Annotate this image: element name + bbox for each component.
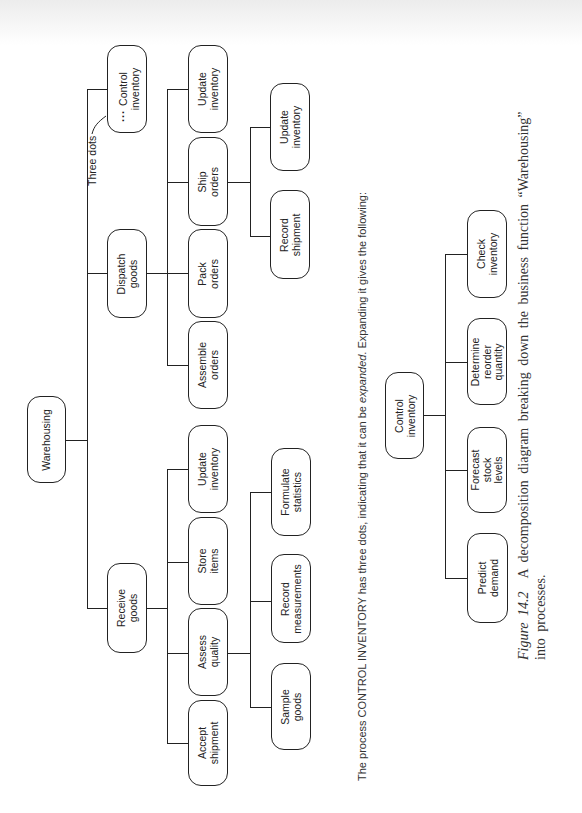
- figure-caption-line2: into processes.: [533, 575, 549, 660]
- branch-line: [167, 469, 168, 743]
- caption-text-continued: into processes.: [533, 575, 548, 660]
- expand-dots-icon: ...: [114, 110, 126, 122]
- connector: [167, 469, 188, 470]
- connector: [87, 89, 107, 90]
- node-receive-goods: Receive goods: [107, 563, 147, 653]
- connector: [147, 273, 167, 274]
- connector: [445, 254, 467, 255]
- branch-line: [167, 89, 168, 365]
- node-label: Dispatch goods: [116, 253, 139, 294]
- branch-line: [250, 492, 251, 707]
- node-store-items: Store items: [188, 517, 228, 605]
- node-label: Ship orders: [197, 167, 220, 197]
- body-text-end: . Expanding it gives the following:: [356, 192, 368, 355]
- node-pack-orders: Pack orders: [188, 229, 228, 318]
- node-record-measurements: Record measurements: [271, 554, 311, 643]
- node-update-inventory-ship: Update inventory: [270, 83, 310, 171]
- node-label: Formulate statistics: [280, 468, 303, 515]
- connector: [167, 89, 188, 90]
- connector: [147, 608, 167, 609]
- node-label: Predict demand: [476, 559, 499, 597]
- figure-label: Figure 14.2: [516, 591, 531, 660]
- node-label: Assess quality: [197, 635, 220, 669]
- branch-line: [445, 254, 446, 578]
- node-ship-orders: Ship orders: [188, 137, 228, 226]
- three-dots-annotation: Three dots: [86, 136, 98, 186]
- node-label: Assemble orders: [197, 342, 220, 388]
- connector: [250, 127, 270, 128]
- connector: [250, 492, 271, 493]
- connector: [167, 365, 188, 366]
- node-label: Record measurements: [280, 564, 303, 633]
- node-label: Receive goods: [116, 589, 139, 627]
- node-check-inventory: Check inventory: [467, 210, 507, 298]
- node-control-inventory: Control inventory ...: [107, 45, 147, 133]
- connector: [424, 415, 445, 416]
- node-assemble-orders: Assemble orders: [188, 321, 228, 409]
- connector: [167, 743, 188, 744]
- body-paragraph: The process CONTROL INVENTORY has three …: [356, 192, 368, 781]
- node-label: Record shipment: [279, 213, 302, 256]
- node-control-inventory-expanded: Control inventory: [385, 372, 424, 459]
- node-update-inventory-dispatch: Update inventory: [188, 45, 228, 133]
- node-assess-quality: Assess quality: [188, 608, 228, 696]
- node-label: Update inventory: [279, 106, 302, 149]
- node-label: Update inventory: [197, 68, 220, 111]
- connector: [87, 608, 107, 609]
- node-label: Check inventory: [476, 233, 499, 276]
- node-label: Accept shipment: [197, 722, 220, 765]
- caption-text: A decomposition diagram breaking down th…: [516, 112, 531, 579]
- connector: [250, 236, 270, 237]
- node-label: Forecast stock levels: [470, 450, 505, 491]
- node-label: Warehousing: [41, 409, 53, 470]
- node-dispatch-goods: Dispatch goods: [107, 229, 147, 318]
- node-label: Sample goods: [280, 689, 303, 725]
- node-label: Update inventory: [197, 448, 220, 491]
- connector: [250, 601, 271, 602]
- connector: [66, 440, 87, 441]
- body-text-emphasis: expanded: [356, 355, 368, 403]
- connector: [167, 273, 188, 274]
- connector: [445, 362, 467, 363]
- node-label: Control inventory: [393, 394, 416, 437]
- connector: [228, 182, 250, 183]
- body-text-start: The process CONTROL INVENTORY has three …: [356, 403, 368, 781]
- page-top-shade: [0, 0, 582, 45]
- connector: [167, 182, 188, 183]
- connector: [250, 707, 271, 708]
- connector: [167, 562, 188, 563]
- node-update-inventory-receive: Update inventory: [188, 425, 228, 513]
- node-label: Store items: [197, 548, 220, 573]
- connector: [87, 273, 107, 274]
- node-formulate-statistics: Formulate statistics: [271, 448, 311, 536]
- connector: [445, 470, 467, 471]
- node-label: Pack orders: [197, 259, 220, 289]
- node-accept-shipment: Accept shipment: [188, 700, 228, 786]
- connector: [228, 653, 250, 654]
- node-forecast-stock-levels: Forecast stock levels: [467, 427, 507, 513]
- figure-caption-line1: Figure 14.2 A decomposition diagram brea…: [516, 112, 532, 660]
- node-sample-goods: Sample goods: [271, 663, 311, 750]
- node-label: Determine reorder quantity: [470, 337, 505, 385]
- connector: [445, 578, 467, 579]
- node-determine-reorder-quantity: Determine reorder quantity: [467, 318, 507, 405]
- node-record-shipment: Record shipment: [270, 190, 310, 279]
- annotation-pointer-icon: [90, 112, 108, 136]
- connector: [167, 653, 188, 654]
- branch-line: [250, 127, 251, 236]
- node-warehousing: Warehousing: [27, 396, 66, 483]
- node-predict-demand: Predict demand: [467, 533, 508, 623]
- node-label: Control inventory: [118, 68, 141, 111]
